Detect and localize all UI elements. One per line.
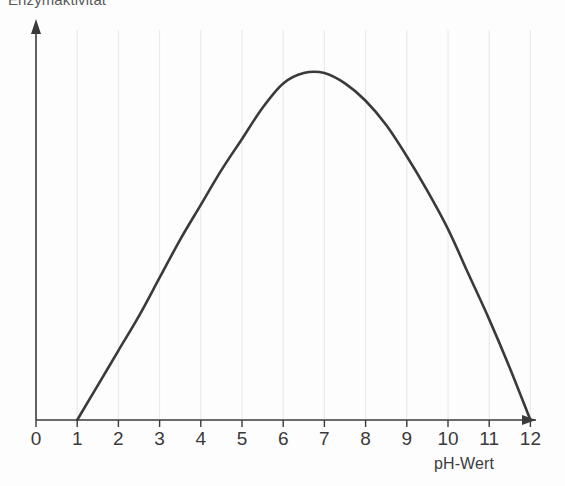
x-tick-label: 9 [387,428,427,450]
x-tick-label: 0 [16,428,56,450]
x-tick-label: 5 [222,428,262,450]
x-tick-label: 11 [469,428,509,450]
x-axis-title: pH-Wert [434,455,494,473]
x-tick-label: 7 [304,428,344,450]
x-tick-label: 2 [98,428,138,450]
x-tick-label: 4 [181,428,221,450]
plot-area [0,0,565,486]
x-tick-label: 1 [57,428,97,450]
x-tick-label: 12 [510,428,550,450]
x-tick-label: 6 [263,428,303,450]
x-tick-label: 8 [346,428,386,450]
activity-curve [77,72,530,420]
x-tick-label: 10 [428,428,468,450]
y-axis-arrow-icon [31,19,41,34]
enzyme-activity-ph-chart: Enzymaktivität 0123456789101112 pH-Wert [0,0,565,486]
x-tick-label: 3 [140,428,180,450]
gridlines [77,30,530,419]
axis-ticks [36,420,530,427]
